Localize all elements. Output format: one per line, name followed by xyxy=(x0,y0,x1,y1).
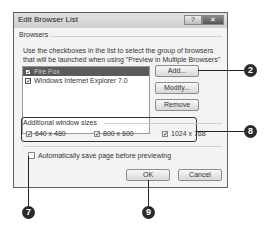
auto-save-checkbox[interactable] xyxy=(28,152,35,159)
close-button[interactable]: ✕ xyxy=(202,15,224,25)
callout-2: 2 xyxy=(244,64,257,77)
size-checkbox[interactable]: ✓ xyxy=(26,131,32,137)
title-bar[interactable]: Edit Browser List ? ✕ xyxy=(14,13,227,28)
list-item[interactable]: ✓ Windows Internet Explorer 7.0 xyxy=(23,76,149,85)
browser-checkbox[interactable]: ✓ xyxy=(25,78,31,84)
add-button[interactable]: Add... xyxy=(155,65,199,77)
callout-line xyxy=(28,156,29,206)
size-label: 800 x 600 xyxy=(103,130,134,137)
close-icon: ✕ xyxy=(210,16,216,23)
window-sizes-label: Additional window sizes xyxy=(23,119,97,126)
help-icon: ? xyxy=(191,16,195,23)
size-label: 640 x 480 xyxy=(35,130,66,137)
auto-save-label: Automatically save page before previewin… xyxy=(38,152,171,159)
size-option-800[interactable]: ✓ 800 x 600 xyxy=(94,130,134,137)
modify-button[interactable]: Modify... xyxy=(155,82,199,94)
browser-label: Fire Fox xyxy=(34,67,60,76)
size-checkbox[interactable]: ✓ xyxy=(94,131,100,137)
callout-line xyxy=(198,70,244,71)
group-divider xyxy=(50,36,222,37)
dialog-title: Edit Browser List xyxy=(18,15,78,24)
callout-7: 7 xyxy=(22,206,35,219)
auto-save-option[interactable]: Automatically save page before previewin… xyxy=(28,152,171,159)
callout-line xyxy=(148,180,149,206)
help-button[interactable]: ? xyxy=(184,15,202,25)
group-divider xyxy=(23,146,222,147)
group-divider xyxy=(104,123,222,124)
size-checkbox[interactable]: ✓ xyxy=(162,131,168,137)
list-item[interactable]: ✓ Fire Fox xyxy=(23,67,149,76)
size-option-640[interactable]: ✓ 640 x 480 xyxy=(26,130,66,137)
callout-9: 9 xyxy=(142,206,155,219)
cancel-button[interactable]: Cancel xyxy=(178,169,222,181)
edit-browser-list-dialog: Edit Browser List ? ✕ Browsers Use the c… xyxy=(13,12,228,188)
browsers-group-label: Browsers xyxy=(19,31,48,38)
callout-line xyxy=(196,131,244,132)
browsers-description: Use the checkboxes in the list to select… xyxy=(23,46,223,64)
browser-label: Windows Internet Explorer 7.0 xyxy=(34,76,128,85)
remove-button[interactable]: Remove xyxy=(155,99,199,111)
callout-8: 8 xyxy=(244,125,257,138)
browser-checkbox[interactable]: ✓ xyxy=(25,69,31,75)
dialog-content: Browsers Use the checkboxes in the list … xyxy=(14,28,227,187)
